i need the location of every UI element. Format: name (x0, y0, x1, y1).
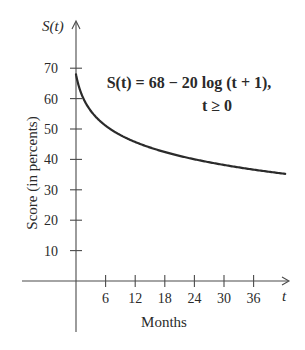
x-tick-label: 12 (128, 291, 142, 306)
y-axis-title: Score (in percents) (24, 116, 41, 229)
x-axis-symbol: t (282, 288, 287, 304)
y-axis-symbol: S(t) (42, 18, 64, 35)
x-tick-label: 6 (102, 291, 109, 306)
x-axis-title: Months (141, 314, 187, 330)
y-tick-label: 50 (44, 122, 58, 137)
x-tick-label: 30 (217, 291, 231, 306)
equation-line-2: t ≥ 0 (202, 97, 232, 114)
equation-line-1: S(t) = 68 − 20 log (t + 1), (107, 74, 272, 92)
x-tick-label: 24 (187, 291, 201, 306)
x-ticks: 61218243036 (102, 275, 261, 306)
y-tick-label: 30 (44, 183, 58, 198)
chart: 10203040506070 61218243036 S(t) t Score … (0, 0, 305, 350)
y-tick-label: 60 (44, 92, 58, 107)
y-tick-label: 40 (44, 152, 58, 167)
y-tick-label: 10 (44, 244, 58, 259)
y-tick-label: 70 (44, 61, 58, 76)
y-tick-label: 20 (44, 213, 58, 228)
x-tick-label: 36 (247, 291, 261, 306)
x-tick-label: 18 (158, 291, 172, 306)
